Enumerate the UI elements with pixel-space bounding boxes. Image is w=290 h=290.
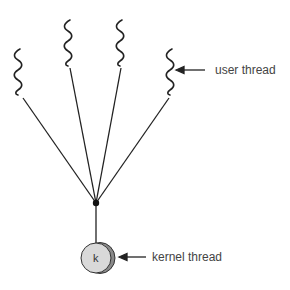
connector-line-2 — [70, 68, 96, 203]
kernel-thread-label: kernel thread — [152, 251, 222, 263]
junction-dot — [93, 200, 99, 206]
connector-line-3 — [96, 68, 121, 203]
kernel-symbol: k — [93, 252, 99, 264]
connector-line-1 — [23, 98, 96, 203]
user-thread-arrow-head — [176, 67, 184, 74]
user-thread-wave-1 — [14, 49, 22, 95]
kernel-thread-node: k — [81, 243, 115, 274]
kernel-thread-arrow-head — [119, 254, 127, 261]
user-thread-wave-4 — [166, 49, 174, 95]
user-thread-wave-2 — [64, 20, 72, 66]
connector-line-4 — [96, 98, 169, 203]
user-thread-wave-3 — [116, 20, 124, 66]
thread-diagram: k — [0, 0, 290, 290]
user-thread-label: user thread — [215, 64, 276, 76]
